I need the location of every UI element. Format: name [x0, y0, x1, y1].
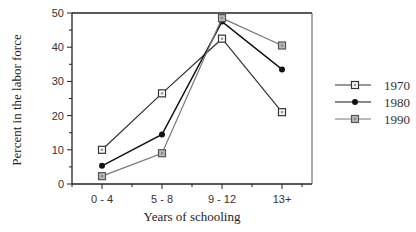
legend-item-1980: 1980 [335, 95, 410, 110]
x-axis-title: Years of schooling [144, 209, 241, 224]
y-tick-label: 30 [52, 75, 64, 87]
square-marker-dot [221, 37, 223, 39]
legend-label: 1970 [384, 78, 410, 93]
series-1970 [99, 35, 286, 153]
legend-label: 1990 [384, 112, 410, 127]
legend-item-1970: 1970 [335, 78, 410, 93]
square-marker-dot [354, 84, 356, 86]
x-tick-label: 13+ [273, 193, 292, 205]
circle-marker-icon [159, 131, 165, 137]
square-marker-dot [161, 92, 163, 94]
x-tick-label: 9 - 12 [208, 193, 236, 205]
square-marker-dot [354, 118, 356, 120]
series-line [102, 22, 282, 166]
y-axis-title: Percent in the labor force [9, 34, 24, 166]
y-tick-label: 50 [52, 7, 64, 19]
series-line [102, 39, 282, 150]
square-marker-dot [161, 152, 163, 154]
square-marker-dot [281, 111, 283, 113]
y-tick-label: 20 [52, 110, 64, 122]
line-chart: 010203040500 - 45 - 89 - 1213+Years of s… [0, 0, 416, 232]
square-marker-dot [281, 44, 283, 46]
legend: 197019801990 [335, 78, 410, 127]
y-tick-label: 40 [52, 41, 64, 53]
axes: 010203040500 - 45 - 89 - 1213+ [52, 7, 312, 205]
x-tick-label: 5 - 8 [151, 193, 173, 205]
circle-marker-icon [99, 163, 105, 169]
series-1980 [99, 19, 285, 169]
y-tick-label: 10 [52, 144, 64, 156]
square-marker-dot [221, 17, 223, 19]
square-marker-dot [101, 149, 103, 151]
x-tick-label: 0 - 4 [91, 193, 113, 205]
y-tick-label: 0 [58, 178, 64, 190]
legend-item-1990: 1990 [335, 112, 410, 127]
square-marker-dot [101, 175, 103, 177]
series-1990 [99, 15, 286, 180]
legend-label: 1980 [384, 95, 410, 110]
circle-marker-icon [352, 99, 358, 105]
circle-marker-icon [279, 66, 285, 72]
